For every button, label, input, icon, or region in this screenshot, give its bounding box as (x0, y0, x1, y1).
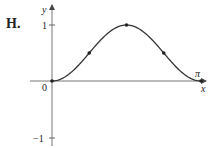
x-tick-label-0: 0 (42, 82, 47, 93)
y-axis-label: y (41, 4, 47, 15)
maximum-point (125, 23, 129, 27)
x-tick-label-pi: π (195, 68, 201, 79)
curve-line (52, 25, 201, 81)
inflection-point (87, 51, 91, 55)
chart: H. y 1 −1 0 π x (0, 0, 212, 148)
marked-points (50, 23, 203, 83)
x-axis-label: x (200, 83, 206, 94)
y-tick-label-neg1: −1 (33, 133, 44, 144)
inflection-point (162, 51, 166, 55)
origin-point (50, 79, 54, 83)
panel-label: H. (6, 16, 20, 31)
endpoint-point (199, 79, 203, 83)
y-tick-label-1: 1 (42, 20, 47, 31)
